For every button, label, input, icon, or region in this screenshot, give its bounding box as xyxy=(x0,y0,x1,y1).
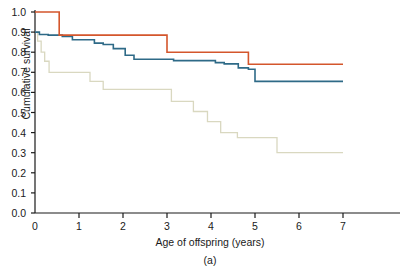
x-tick-label: 4 xyxy=(201,221,221,231)
red-curve xyxy=(35,12,343,64)
x-tick-label: 7 xyxy=(333,221,353,231)
x-tick-label: 1 xyxy=(69,221,89,231)
y-tick-label: 0.0 xyxy=(0,208,26,218)
x-tick-label: 6 xyxy=(289,221,309,231)
chart-canvas xyxy=(0,0,409,274)
survival-chart-figure: 0.00.10.20.30.40.50.60.70.80.91.0 012345… xyxy=(0,0,409,274)
x-tick-label: 3 xyxy=(157,221,177,231)
x-tick-label: 0 xyxy=(25,221,45,231)
x-tick-marks xyxy=(79,213,343,218)
series-layer xyxy=(35,12,343,153)
x-tick-label: 2 xyxy=(113,221,133,231)
x-tick-label: 5 xyxy=(245,221,265,231)
panel-label: (a) xyxy=(160,254,260,266)
y-tick-label: 0.1 xyxy=(0,188,26,198)
y-tick-label: 0.3 xyxy=(0,148,26,158)
x-axis-label: Age of offspring (years) xyxy=(120,236,300,248)
blue-curve xyxy=(35,32,343,81)
y-tick-label: 0.2 xyxy=(0,168,26,178)
y-axis-label: Cumulative survival xyxy=(20,4,32,144)
tan-curve xyxy=(35,32,343,153)
